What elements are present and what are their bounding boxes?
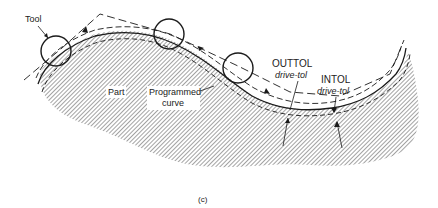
direction-arrow-icon: [198, 46, 204, 51]
tolerance-diagram: Tool Part Programmed curve OUTTOL drive-…: [0, 0, 438, 208]
figure-caption: (c): [198, 195, 208, 204]
direction-arrow-icon: [264, 88, 270, 94]
tool-circle-3: [223, 53, 253, 83]
programmed-curve-label-line1: Programmed: [149, 87, 201, 97]
outtol-leader: [290, 81, 298, 110]
tool-label: Tool: [25, 14, 42, 24]
intol-sub-label: drive-tol: [317, 86, 350, 96]
part-label: Part: [108, 87, 125, 97]
intol-label: INTOL: [321, 74, 351, 85]
outtol-sub-label: drive-tol: [275, 70, 308, 80]
outtol-label: OUTTOL: [272, 58, 313, 69]
programmed-curve-label-line2: curve: [162, 98, 184, 108]
